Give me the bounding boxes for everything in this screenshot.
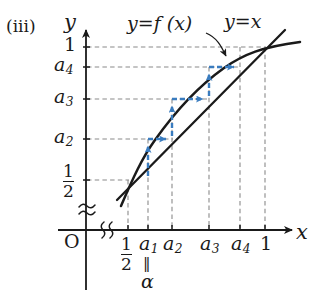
alpha-equals-glyph: ‖ — [143, 256, 151, 271]
cobweb-staircase — [148, 67, 234, 176]
y-tick-label-a2: a2 — [54, 127, 73, 148]
x-tick-label-a3: a3 — [200, 234, 219, 255]
function-curve-label: y=f (x) — [127, 14, 192, 33]
y-axis-label: y — [64, 12, 76, 33]
origin-label: O — [64, 232, 80, 251]
alpha-label: α — [141, 272, 154, 291]
function-label-leader-arrow — [206, 33, 226, 56]
y-axis-break-icon — [79, 204, 95, 215]
x-tick-label-one: 1 — [260, 234, 272, 253]
y-tick-label-a3: a3 — [54, 87, 73, 108]
y-tick-label-one: 1 — [64, 35, 76, 54]
y-tick-label-a4: a4 — [54, 55, 73, 76]
vertical-guide-lines — [128, 47, 265, 228]
figure-canvas: (iii) y x O y=f (x) y=x 1 a4 a3 a2 1 2 1… — [0, 0, 320, 296]
x-tick-label-a4: a4 — [231, 234, 250, 255]
y-tick-label-one-half: 1 2 — [63, 163, 74, 200]
panel-label: (iii) — [6, 18, 36, 35]
identity-line-y-equals-x — [117, 30, 285, 200]
x-axis-label: x — [296, 222, 308, 243]
x-tick-label-a1: a1 — [139, 234, 158, 255]
x-tick-label-a2: a2 — [163, 234, 182, 255]
identity-line-label: y=x — [224, 12, 261, 31]
x-tick-label-one-half: 1 2 — [121, 236, 132, 273]
